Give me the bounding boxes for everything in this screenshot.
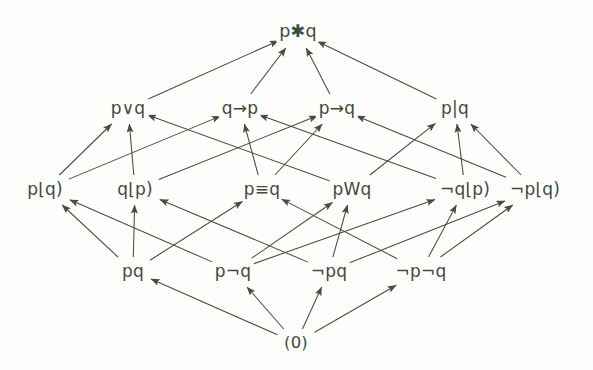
- lattice-edge-zero-to-pnq: [247, 287, 284, 329]
- lattice-node-pimpq: p→q: [316, 99, 358, 118]
- lattice-node-pnq: p¬q: [212, 262, 254, 281]
- lattice-edge-pnq-to-nqleftp: [252, 200, 435, 265]
- lattice-edge-npq-to-npleftq: [348, 201, 505, 264]
- lattice-node-top: p✱q: [276, 22, 319, 42]
- lattice-edge-qleftp-to-or: [129, 124, 133, 175]
- lattice-node-qleftp: q⌊p): [114, 180, 156, 199]
- lattice-node-qimpp: q→p: [219, 99, 261, 118]
- lattice-node-or: p∨q: [108, 99, 149, 118]
- lattice-node-npleftq: ¬p⌊q): [507, 180, 563, 199]
- lattice-node-npnq: ¬p¬q: [393, 262, 450, 281]
- lattice-edge-equiv-to-qimpp: [244, 124, 258, 175]
- lattice-edge-pleftq-to-or: [59, 124, 111, 175]
- lattice-node-pwq: pWq: [330, 180, 375, 199]
- lattice-node-npq: ¬pq: [308, 262, 350, 281]
- lattice-edge-or-to-top: [147, 41, 279, 100]
- lattice-edge-pnq-to-pleftq: [70, 200, 215, 263]
- lattice-node-pq: pq: [119, 262, 147, 281]
- lattice-diagram: p✱qp∨qq→pp→qp|qp⌊q)q⌊p)p≡qpWq¬q⌊p)¬p⌊q)p…: [0, 0, 593, 370]
- lattice-edge-pwq-to-nand: [370, 123, 436, 175]
- lattice-edge-pq-to-pleftq: [62, 205, 118, 257]
- lattice-edge-nqleftp-to-nand: [457, 124, 463, 175]
- lattice-edge-zero-to-pq: [151, 279, 277, 335]
- lattice-node-zero: (0): [281, 334, 311, 353]
- lattice-edge-nqleftp-to-qimpp: [260, 115, 436, 179]
- edge-layer: [0, 0, 593, 370]
- lattice-edge-pq-to-equiv: [150, 201, 242, 260]
- lattice-edge-pq-to-qleftp: [133, 205, 134, 257]
- lattice-node-pleftq: p⌊q): [24, 180, 66, 199]
- lattice-edge-qimpp-to-top: [251, 48, 286, 94]
- lattice-edge-zero-to-npq: [302, 287, 321, 329]
- lattice-edge-pimpq-to-top: [306, 48, 330, 94]
- lattice-edge-zero-to-npnq: [315, 285, 397, 332]
- lattice-node-nand: p|q: [438, 99, 472, 118]
- lattice-edge-pwq-to-or: [148, 115, 334, 182]
- lattice-edge-npleftq-to-nand: [471, 124, 521, 175]
- lattice-node-equiv: p≡q: [241, 180, 283, 199]
- lattice-edge-pleftq-to-qimpp: [69, 116, 221, 179]
- lattice-node-nqleftp: ¬q⌊p): [437, 180, 493, 199]
- lattice-edge-equiv-to-pimpq: [275, 124, 322, 175]
- lattice-edge-npq-to-qleftp: [160, 199, 311, 263]
- lattice-edge-nand-to-top: [318, 41, 437, 99]
- lattice-edge-npnq-to-nqleftp: [429, 205, 457, 257]
- lattice-edge-npnq-to-equiv: [282, 199, 398, 259]
